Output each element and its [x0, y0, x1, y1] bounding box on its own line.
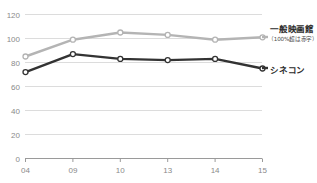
ytick-label-120: 120 — [7, 11, 21, 20]
series-line-cineplex — [26, 54, 263, 72]
legend-label-cineplex: シネコン — [270, 63, 305, 75]
line-chart: 120 100 80 60 40 20 0 04 09 10 13 14 15 — [0, 0, 317, 183]
data-point — [118, 56, 123, 61]
ytick-label-80: 80 — [11, 59, 20, 68]
y-axis-tick-labels: 120 100 80 60 40 20 0 — [7, 11, 21, 164]
xtick-label-04: 04 — [21, 166, 30, 175]
series-markers-cineplex — [23, 52, 265, 75]
ytick-label-40: 40 — [11, 107, 20, 116]
data-point — [213, 37, 218, 42]
legend-note-general-theater: （100%超は赤字） — [268, 35, 317, 43]
data-point — [165, 58, 170, 63]
xtick-label-10: 10 — [116, 166, 125, 175]
xtick-label-09: 09 — [68, 166, 77, 175]
series-cineplex — [23, 52, 265, 75]
ytick-label-100: 100 — [7, 35, 21, 44]
xtick-label-15: 15 — [258, 166, 267, 175]
ytick-label-20: 20 — [11, 131, 20, 140]
series-line-general-theater — [26, 33, 263, 57]
data-point — [70, 37, 75, 42]
series-general-theater — [23, 30, 265, 59]
ytick-label-60: 60 — [11, 83, 20, 92]
data-point — [23, 54, 28, 59]
x-axis-tick-labels: 04 09 10 13 14 15 — [21, 166, 267, 175]
x-axis-ticks — [26, 159, 263, 163]
ytick-label-0: 0 — [16, 155, 21, 164]
xtick-label-13: 13 — [163, 166, 172, 175]
data-point — [118, 30, 123, 35]
xtick-label-14: 14 — [211, 166, 220, 175]
data-point — [213, 56, 218, 61]
legend-label-general-theater: 一般映画館 — [270, 22, 314, 34]
data-point — [165, 32, 170, 37]
data-point — [70, 52, 75, 57]
data-point — [23, 70, 28, 75]
